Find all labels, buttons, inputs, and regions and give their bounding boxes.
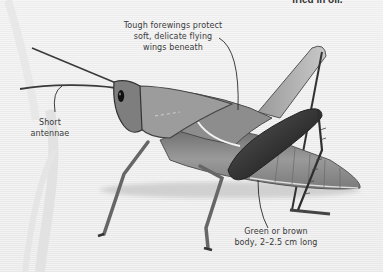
- label-line: soft, delicate flying: [118, 31, 228, 42]
- page-background: fried in oil.: [0, 0, 383, 272]
- label-line: body, 2–2.5 cm long: [226, 237, 326, 248]
- label-body: Green or brown body, 2–2.5 cm long: [226, 226, 326, 248]
- front-foot: [98, 234, 104, 236]
- compound-eye: [118, 90, 124, 102]
- head: [114, 81, 142, 133]
- label-line: antennae: [30, 128, 70, 139]
- label-line: Short: [30, 117, 70, 128]
- label-antennae: Short antennae: [30, 117, 70, 139]
- label-forewings: Tough forewings protect soft, delicate f…: [118, 20, 228, 53]
- label-line: Green or brown: [226, 226, 326, 237]
- antenna-lower: [20, 85, 116, 89]
- far-hind-tarsus: [290, 210, 330, 214]
- antenna-upper: [32, 48, 116, 83]
- label-line: Tough forewings protect: [118, 20, 228, 31]
- middle-foot: [204, 248, 212, 250]
- label-line: wings beneath: [118, 42, 228, 53]
- middle-leg: [200, 166, 222, 248]
- leader-line-antennae: [54, 86, 62, 112]
- eye-highlight: [119, 93, 121, 96]
